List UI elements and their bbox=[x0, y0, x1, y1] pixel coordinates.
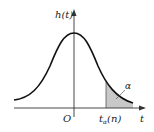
critical-value-arg: (n) bbox=[107, 113, 121, 124]
x-axis-label: t bbox=[140, 113, 145, 124]
x-axis-arrow-icon bbox=[139, 106, 146, 111]
t-distribution-diagram: h(t) O tα(n) t α bbox=[0, 0, 154, 132]
tail-area-label: α bbox=[125, 81, 131, 91]
critical-value-label: tα(n) bbox=[99, 113, 121, 125]
density-curve bbox=[14, 33, 133, 103]
origin-label: O bbox=[63, 113, 71, 124]
y-axis-label: h(t) bbox=[55, 9, 73, 20]
